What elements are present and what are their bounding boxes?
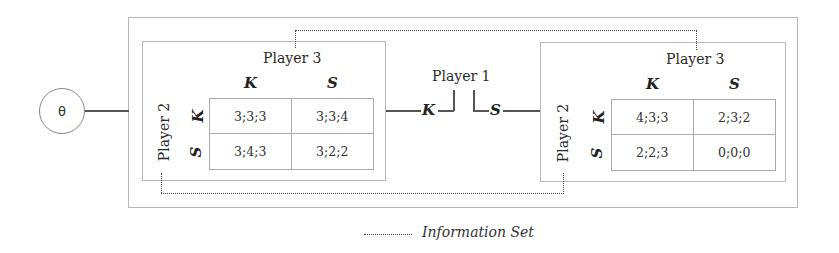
root-edge <box>85 110 129 112</box>
subgame-right-col-player: Player 3 <box>666 51 725 67</box>
info-set-player3-line <box>295 30 697 31</box>
subgame-left-row-strategy-k: K <box>189 109 207 122</box>
player1-edge-s-up <box>473 90 475 111</box>
payoff-cell: 3;3;3 <box>210 99 292 134</box>
payoff-cell: 2;3;2 <box>694 100 776 135</box>
player1-edge-k-right <box>438 110 454 112</box>
subgame-left-col-strategy-k: K <box>244 74 257 92</box>
payoff-cell: 4;3;3 <box>612 100 694 135</box>
payoff-cell: 3;3;4 <box>292 99 374 134</box>
payoff-cell: 3;4;3 <box>210 134 292 169</box>
player1-action-s: S <box>490 101 501 119</box>
payoff-cell: 2;2;3 <box>612 135 694 170</box>
subgame-right-row-strategy-k: K <box>590 110 608 123</box>
player1-action-k: K <box>422 101 435 119</box>
info-set-player3-right-stub <box>696 30 697 50</box>
info-set-player2-right-stub <box>563 173 564 194</box>
subgame-left-payoff-matrix: 3;3;3 3;3;4 3;4;3 3;2;2 <box>209 98 374 170</box>
theta-label: θ <box>58 104 66 119</box>
subgame-right-row-strategy-s: S <box>588 148 606 159</box>
info-set-player3-left-stub <box>295 30 296 48</box>
player1-edge-s-right <box>503 110 540 112</box>
player1-edge-k-up <box>453 90 455 111</box>
info-set-player2-left-stub <box>161 173 162 193</box>
legend-dotted-line-icon <box>364 234 412 235</box>
player1-edge-k-left <box>386 110 421 112</box>
player1-label: Player 1 <box>432 68 491 84</box>
subgame-left-col-player: Player 3 <box>263 50 322 66</box>
subgame-left-col-strategy-s: S <box>327 74 338 92</box>
payoff-cell: 3;2;2 <box>292 134 374 169</box>
player1-edge-s-left <box>473 110 489 112</box>
legend-label: Information Set <box>422 224 534 240</box>
subgame-right-col-strategy-s: S <box>729 75 740 93</box>
subgame-left-row-strategy-s: S <box>187 147 205 158</box>
chance-node: θ <box>39 88 85 134</box>
payoff-cell: 0;0;0 <box>694 135 776 170</box>
subgame-right-col-strategy-k: K <box>646 75 659 93</box>
subgame-right-payoff-matrix: 4;3;3 2;3;2 2;2;3 0;0;0 <box>611 99 776 171</box>
subgame-right-row-player: Player 2 <box>555 101 571 165</box>
subgame-left-row-player: Player 2 <box>156 100 172 164</box>
info-set-player2-line <box>161 193 564 194</box>
